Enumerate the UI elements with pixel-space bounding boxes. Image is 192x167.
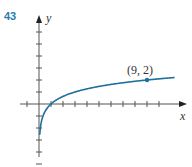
y-axis-arrow-icon bbox=[36, 15, 42, 23]
log-graph: xy(9, 2) bbox=[0, 0, 192, 167]
point-label: (9, 2) bbox=[127, 63, 153, 77]
x-axis-label: x bbox=[179, 109, 186, 123]
log-curve bbox=[40, 78, 175, 135]
y-axis-label: y bbox=[45, 11, 52, 25]
x-axis-arrow-icon bbox=[179, 101, 187, 107]
point-marker bbox=[145, 78, 149, 82]
